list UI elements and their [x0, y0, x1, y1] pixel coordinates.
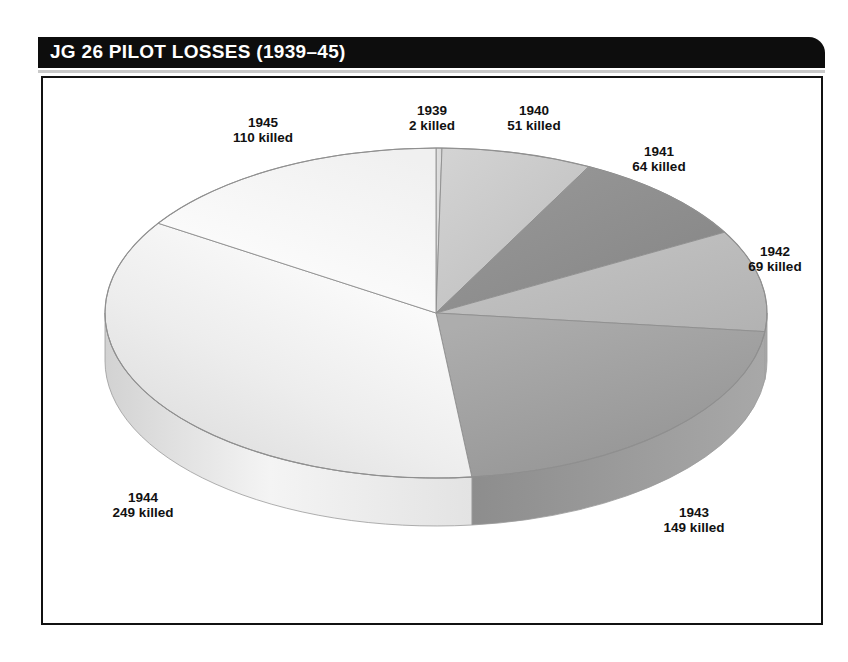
pie-label-1945: 1945 110 killed: [215, 115, 311, 145]
pie-label-1942: 1942 69 killed: [732, 244, 818, 274]
pie-label-1944: 1944 249 killed: [95, 490, 191, 520]
pie-label-1943: 1943 149 killed: [646, 505, 742, 535]
pie-label-1939: 1939 2 killed: [393, 103, 471, 133]
pie-label-1940: 1940 51 killed: [490, 103, 578, 133]
pie-label-1941: 1941 64 killed: [611, 144, 707, 174]
pie-chart: [0, 0, 848, 662]
pie-slice-1943: [436, 313, 765, 477]
pie-slices: [105, 148, 767, 478]
